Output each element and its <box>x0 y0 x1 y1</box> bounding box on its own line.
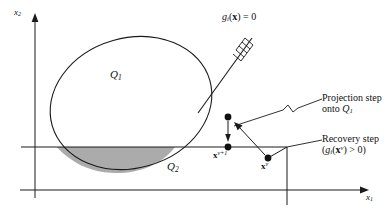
annotation-projection-step: Projection step onto Q1 <box>322 92 382 115</box>
recovery-bracket-line <box>268 147 287 158</box>
x-axis-label-sub: 1 <box>370 196 373 202</box>
annotation-projection-q-sub: 1 <box>350 108 353 115</box>
diagram-figure: x2 x1 Q1 Q2 gi(x) = 0 Projection step on… <box>0 0 387 219</box>
point-label-x-next: xv+1 <box>213 150 227 160</box>
region-label-q1: Q1 <box>110 68 122 82</box>
point-label-x-current-sup: v <box>266 161 269 167</box>
recovery-arrow-head <box>225 134 231 142</box>
point-label-x-next-sup: v+1 <box>218 150 228 156</box>
x-axis-label: x1 <box>366 192 373 203</box>
point-upper <box>225 114 232 121</box>
y-axis-arrowhead <box>32 13 39 22</box>
region-label-q2: Q2 <box>167 160 179 174</box>
annotation-recovery-line2: (gi(xv) > 0) <box>322 144 379 156</box>
region-label-q2-main: Q <box>167 160 175 172</box>
annotation-projection-line1: Projection step <box>322 92 382 103</box>
annotation-projection-line2: onto Q1 <box>322 103 382 115</box>
constraint-label: gi(x) = 0 <box>222 11 256 23</box>
y-axis-label: x2 <box>14 7 21 18</box>
projection-leader-line <box>234 99 322 126</box>
y-axis-label-sub: 2 <box>18 11 21 17</box>
annotation-recovery-tail: > 0) <box>347 144 366 155</box>
annotation-projection-q: Q <box>342 103 349 114</box>
region-label-q1-main: Q <box>110 68 118 80</box>
annotation-projection-onto: onto <box>322 103 342 114</box>
region-label-q1-sub: 1 <box>118 73 122 82</box>
recovery-leader-line <box>287 140 322 147</box>
constraint-label-rest: ) = 0 <box>237 11 256 22</box>
projection-arrow-shaft <box>239 127 265 155</box>
annotation-recovery-step: Recovery step (gi(xv) > 0) <box>322 133 379 156</box>
annotation-recovery-line1: Recovery step <box>322 133 379 144</box>
point-label-x-current: xv <box>261 161 268 171</box>
constraint-line <box>198 38 252 113</box>
region-label-q2-sub: 2 <box>175 165 179 174</box>
